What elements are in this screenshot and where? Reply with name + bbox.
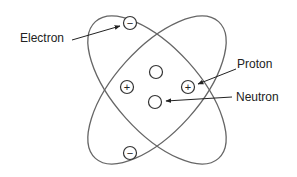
proton-label: Proton [237, 57, 272, 71]
atom-diagram: + + − − Electron Proton Neutron [0, 0, 297, 177]
svg-text:−: − [127, 17, 133, 29]
electron-arrow [72, 26, 120, 40]
proton-left: + [121, 81, 134, 94]
svg-text:−: − [127, 147, 133, 159]
electron-bottom: − [124, 147, 137, 160]
neutron-label: Neutron [236, 90, 279, 104]
svg-text:+: + [124, 81, 130, 93]
electron-label: Electron [20, 31, 64, 45]
neutron-arrow [166, 97, 232, 101]
neutron-bottom [149, 96, 162, 109]
proton-arrow [198, 69, 236, 84]
svg-text:+: + [185, 81, 191, 93]
proton-right: + [182, 81, 195, 94]
electron-top: − [124, 17, 137, 30]
neutron-top [150, 66, 163, 79]
